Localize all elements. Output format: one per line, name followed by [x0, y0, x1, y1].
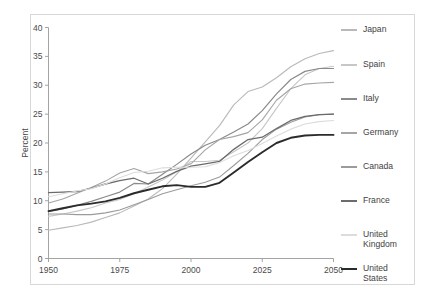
legend-swatch-icon	[341, 132, 357, 134]
y-axis-label: Percent	[20, 128, 30, 158]
legend-item-united-states[interactable]: United States	[341, 263, 388, 283]
legend-item-germany[interactable]: Germany	[341, 127, 398, 137]
y-tick-label: 0	[38, 254, 43, 264]
y-tick-label: 25	[33, 109, 43, 119]
y-tick-label: 30	[33, 80, 43, 90]
legend-swatch-icon	[341, 166, 357, 168]
legend-swatch-icon	[341, 268, 357, 270]
legend-label: United Kingdom	[363, 229, 397, 249]
y-tick-label: 15	[33, 167, 43, 177]
x-tick-label: 2025	[253, 265, 272, 275]
legend-label: United States	[363, 263, 388, 283]
x-axis-ticks: 19501975200020252050	[39, 259, 343, 275]
y-tick-label: 5	[38, 225, 43, 235]
x-tick-label: 1950	[39, 265, 58, 275]
legend-label: Japan	[363, 24, 386, 34]
chart-legend: JapanSpainItalyGermanyCanadaFranceUnited…	[341, 20, 415, 282]
legend-swatch-icon	[341, 200, 357, 202]
legend-swatch-icon	[341, 234, 357, 236]
legend-item-france[interactable]: France	[341, 195, 390, 205]
y-tick-label: 20	[33, 138, 43, 148]
x-tick-label: 2000	[182, 265, 201, 275]
data-series-group	[49, 51, 334, 231]
legend-swatch-icon	[341, 64, 357, 66]
legend-label: Canada	[363, 161, 393, 171]
y-tick-label: 10	[33, 196, 43, 206]
legend-item-italy[interactable]: Italy	[341, 93, 379, 103]
legend-swatch-icon	[341, 98, 357, 100]
axis-frame	[49, 28, 334, 259]
legend-item-canada[interactable]: Canada	[341, 161, 393, 171]
legend-item-japan[interactable]: Japan	[341, 24, 386, 34]
y-tick-label: 40	[33, 23, 43, 33]
series-line-united-states	[49, 135, 334, 211]
legend-swatch-icon	[341, 29, 357, 31]
y-tick-label: 35	[33, 51, 43, 61]
legend-item-united-kingdom[interactable]: United Kingdom	[341, 229, 397, 249]
y-axis-ticks: 0510152025303540	[33, 23, 48, 264]
legend-label: Italy	[363, 93, 379, 103]
legend-item-spain[interactable]: Spain	[341, 59, 385, 69]
legend-label: France	[363, 195, 390, 205]
x-tick-label: 1975	[110, 265, 129, 275]
legend-label: Spain	[363, 59, 385, 69]
series-line-italy	[49, 69, 334, 212]
series-line-germany	[49, 82, 334, 203]
legend-label: Germany	[363, 127, 398, 137]
